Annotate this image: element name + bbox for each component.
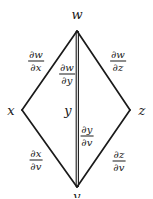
edge-label-dz-dv-numerator: ∂z [113, 150, 126, 161]
edge-label-dw-dz-denominator: ∂z [110, 62, 126, 73]
edge-label-dx-dv: ∂x ∂v [30, 149, 43, 172]
edge-label-dz-dv: ∂z ∂v [113, 150, 126, 173]
chain-rule-diagram: w x y z v ∂w ∂x ∂w ∂y ∂w ∂z ∂y ∂v ∂x ∂v … [0, 0, 153, 198]
edge-label-dy-dv-numerator: ∂y [81, 125, 94, 136]
edge-label-dy-dv-denominator: ∂v [81, 137, 94, 148]
edge-label-dw-dz-numerator: ∂w [110, 50, 126, 61]
edge-label-dz-dv-denominator: ∂v [113, 162, 126, 173]
edge-label-dw-dy-denominator: ∂y [59, 75, 75, 86]
edge-label-dw-dz: ∂w ∂z [110, 50, 126, 73]
edge-label-dx-dv-numerator: ∂x [30, 149, 43, 160]
node-label-y: y [64, 104, 71, 117]
edge-label-dw-dy: ∂w ∂y [59, 63, 75, 86]
edge-label-dw-dx-numerator: ∂w [28, 50, 44, 61]
node-label-v: v [73, 190, 80, 199]
edge-label-dw-dx-denominator: ∂x [28, 62, 44, 73]
diagram-edges [0, 0, 153, 198]
node-label-w: w [71, 8, 82, 21]
edge-label-dy-dv: ∂y ∂v [81, 125, 94, 148]
edge-label-dx-dv-denominator: ∂v [30, 161, 43, 172]
node-label-z: z [139, 104, 146, 117]
node-label-x: x [7, 104, 14, 117]
edge-label-dw-dy-numerator: ∂w [59, 63, 75, 74]
edge-label-dw-dx: ∂w ∂x [28, 50, 44, 73]
